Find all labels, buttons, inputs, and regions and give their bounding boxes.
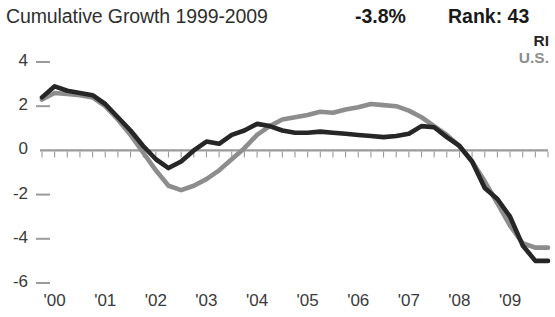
axis-x-tick-label: '06 [335, 291, 381, 311]
axis-x-tick-label: '08 [436, 291, 482, 311]
axis-y-tick-label: 0 [2, 139, 28, 159]
axis-minor-ticks [42, 151, 548, 157]
axis-x-tick-label: '02 [133, 291, 179, 311]
axis-x-tick-label: '05 [285, 291, 331, 311]
axis-y-tick-label: 2 [2, 95, 28, 115]
axis-y-tick-label: -2 [2, 184, 28, 204]
axis-x-tick-label: '09 [487, 291, 533, 311]
chart-canvas [0, 0, 555, 317]
axis-x-tick-label: '00 [32, 291, 78, 311]
axis-y-tick-label: 4 [2, 51, 28, 71]
axis-x-tick-label: '07 [386, 291, 432, 311]
axis-y-tick-label: -6 [2, 272, 28, 292]
chart-root: Cumulative Growth 1999-2009 -3.8% Rank: … [0, 0, 555, 317]
axis-x-tick-label: '01 [82, 291, 128, 311]
series-line-ri [42, 86, 548, 261]
axis-x-tick-label: '04 [234, 291, 280, 311]
axis-y-tick-label: -4 [2, 228, 28, 248]
plot-area: 420-2-4-6 '00'01'02'03'04'05'06'07'08'09 [0, 0, 555, 317]
axis-x-tick-label: '03 [183, 291, 229, 311]
